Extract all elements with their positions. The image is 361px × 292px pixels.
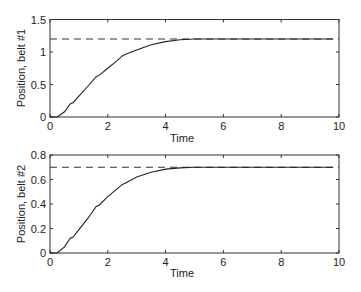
y-tick-label: 0.2 xyxy=(31,223,46,235)
y-tick-label: 0 xyxy=(40,247,46,259)
y-tick-label: 0.4 xyxy=(31,198,46,210)
y-tick-label: 0 xyxy=(40,111,46,123)
y-tick-label: 0.5 xyxy=(31,79,46,91)
x-tick-label: 2 xyxy=(105,120,111,132)
y-tick-label: 0.8 xyxy=(31,149,46,161)
subplot-belt-2: 0246810 00.20.40.60.8 Time Position, bel… xyxy=(15,149,345,279)
x-tick-label: 4 xyxy=(163,256,169,268)
x-tick-label: 0 xyxy=(47,256,53,268)
response-curve xyxy=(50,167,333,253)
x-axis-label: Time xyxy=(170,132,194,144)
x-tick-label: 8 xyxy=(278,256,284,268)
x-tick-label: 4 xyxy=(163,120,169,132)
axes-frame xyxy=(50,155,339,253)
x-tick-label: 10 xyxy=(333,256,345,268)
x-tick-label: 6 xyxy=(220,120,226,132)
x-tick-label: 8 xyxy=(278,120,284,132)
x-tick-label: 2 xyxy=(105,256,111,268)
x-ticks: 0246810 xyxy=(47,155,345,268)
y-axis-label: Position, belt #2 xyxy=(15,165,27,243)
y-axis-label: Position, belt #1 xyxy=(15,29,27,107)
figure: 0246810 00.511.5 Time Position, belt #1 … xyxy=(0,0,361,292)
y-ticks: 00.511.5 xyxy=(31,14,339,124)
x-axis-label: Time xyxy=(170,267,194,279)
x-ticks: 0246810 xyxy=(47,20,345,133)
x-tick-label: 0 xyxy=(47,120,53,132)
response-curve xyxy=(50,39,333,117)
y-ticks: 00.20.40.60.8 xyxy=(31,149,339,259)
axes-frame xyxy=(50,20,339,118)
y-tick-label: 1.5 xyxy=(31,14,46,26)
y-tick-label: 0.6 xyxy=(31,174,46,186)
x-tick-label: 10 xyxy=(333,120,345,132)
x-tick-label: 6 xyxy=(220,256,226,268)
y-tick-label: 1 xyxy=(40,46,46,58)
subplot-belt-1: 0246810 00.511.5 Time Position, belt #1 xyxy=(15,14,345,145)
